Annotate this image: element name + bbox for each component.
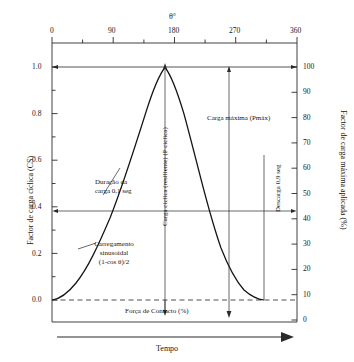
top-tick-180: 180 (168, 26, 179, 35)
annotation-descarga: Descarga 0,9 seg (274, 165, 283, 213)
left-tick-0-2: 0.2 (32, 249, 41, 258)
right-axis-title: Factor de carga máxima aplicada (%) (339, 110, 348, 230)
left-tick-0-8: 0.8 (32, 109, 41, 118)
left-tick-1-0: 1.0 (32, 62, 41, 71)
right-tick-0: 0 (303, 315, 307, 324)
annotation-carga-maxima: Carga máxima (Pmáx) (207, 114, 270, 123)
annotation-sinusoidal-line2: sinusoidal (82, 249, 146, 258)
right-tick-90: 90 (303, 87, 311, 96)
right-tick-60: 60 (303, 163, 311, 172)
right-tick-80: 80 (303, 113, 311, 122)
top-tick-270: 270 (229, 26, 240, 35)
right-tick-50: 50 (303, 189, 311, 198)
right-tick-100: 100 (303, 62, 314, 71)
top-tick-90: 90 (108, 26, 116, 35)
bottom-axis-title: Tempo (156, 344, 178, 353)
top-axis-title: θ° (169, 12, 176, 21)
top-tick-360: 360 (290, 26, 301, 35)
annotation-forca-contacto: Força de Contacto (%) (125, 307, 189, 316)
right-tick-10: 10 (303, 290, 311, 299)
right-tick-30: 30 (303, 239, 311, 248)
left-tick-0-0: 0.0 (32, 295, 41, 304)
annotation-sinusoidal-line1: Carregamento (82, 240, 146, 249)
right-tick-20: 20 (303, 264, 311, 273)
right-tick-40: 40 (303, 214, 311, 223)
annotation-carga-ciclica: Carga cíclica (resiliente) (P cíclica) (161, 127, 170, 226)
annotation-duracao-line1: Duração da (95, 178, 127, 187)
right-tick-70: 70 (303, 138, 311, 147)
top-tick-0: 0 (50, 26, 54, 35)
left-axis-title: Factor de carga cíclica (CS) (26, 156, 35, 245)
annotation-sinusoidal-line3: (1-cos θ)/2 (82, 258, 146, 267)
annotation-duracao-line2: carga 0,1 seg (95, 187, 132, 196)
